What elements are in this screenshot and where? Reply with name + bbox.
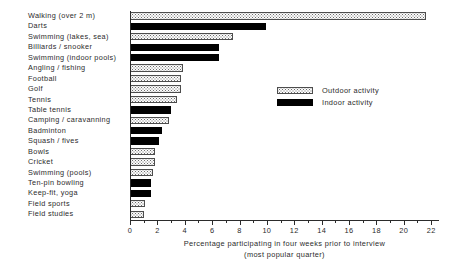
bar-row bbox=[130, 32, 438, 42]
x-tick bbox=[240, 221, 241, 225]
category-label: Badminton bbox=[0, 126, 124, 136]
x-tick bbox=[349, 221, 350, 225]
x-tick-label: 22 bbox=[427, 226, 436, 235]
bar-outdoor bbox=[130, 96, 177, 103]
bar-row bbox=[130, 53, 438, 63]
x-tick-label: 16 bbox=[345, 226, 354, 235]
y-axis-line bbox=[130, 11, 131, 221]
x-tick-label: 12 bbox=[290, 226, 299, 235]
bar-row bbox=[130, 168, 438, 178]
category-label: Angling / fishing bbox=[0, 63, 124, 73]
bar-chart: Walking (over 2 m)DartsSwimming (lakes, … bbox=[0, 0, 458, 265]
bar-indoor bbox=[130, 23, 266, 30]
category-label: Squash / fives bbox=[0, 136, 124, 146]
legend-swatch-indoor bbox=[277, 99, 313, 106]
x-tick bbox=[267, 221, 268, 225]
x-tick-minor bbox=[281, 221, 282, 223]
x-tick bbox=[212, 221, 213, 225]
x-tick-minor bbox=[226, 221, 227, 223]
x-tick-minor bbox=[363, 221, 364, 223]
bar-row bbox=[130, 199, 438, 209]
legend-label: Indoor activity bbox=[322, 98, 373, 107]
category-label: Tennis bbox=[0, 95, 124, 105]
x-tick-minor bbox=[308, 221, 309, 223]
bar-outdoor bbox=[130, 211, 144, 218]
x-tick-minor bbox=[335, 221, 336, 223]
category-label: Camping / caravanning bbox=[0, 115, 124, 125]
bar-outdoor bbox=[130, 117, 169, 124]
x-axis-line bbox=[130, 220, 439, 221]
bar-row bbox=[130, 136, 438, 146]
x-axis-title-line1: Percentage participating in four weeks p… bbox=[130, 238, 439, 249]
category-label: Field studies bbox=[0, 209, 124, 219]
category-label: Swimming (indoor pools) bbox=[0, 53, 124, 63]
x-tick-label: 20 bbox=[399, 226, 408, 235]
x-tick-minor bbox=[390, 221, 391, 223]
bar-row bbox=[130, 74, 438, 84]
bar-row bbox=[130, 178, 438, 188]
category-label: Keep-fit, yoga bbox=[0, 188, 124, 198]
x-tick-label: 14 bbox=[317, 226, 326, 235]
bar-row bbox=[130, 21, 438, 31]
legend-item: Outdoor activity bbox=[277, 84, 437, 97]
bar-indoor bbox=[130, 106, 171, 113]
x-tick-label: 8 bbox=[237, 226, 241, 235]
category-label: Darts bbox=[0, 21, 124, 31]
bar-row bbox=[130, 63, 438, 73]
bar-outdoor bbox=[130, 85, 181, 92]
bar-row bbox=[130, 11, 438, 21]
x-tick-minor bbox=[144, 221, 145, 223]
bar-indoor bbox=[130, 137, 159, 144]
x-axis-title: Percentage participating in four weeks p… bbox=[130, 238, 439, 260]
x-tick-label: 0 bbox=[128, 226, 132, 235]
bar-row bbox=[130, 147, 438, 157]
category-label: Football bbox=[0, 74, 124, 84]
category-label: Field sports bbox=[0, 199, 124, 209]
bar-outdoor bbox=[130, 169, 153, 176]
plot-area bbox=[130, 11, 438, 220]
bar-indoor bbox=[130, 190, 151, 197]
x-tick-label: 6 bbox=[210, 226, 214, 235]
x-tick-label: 2 bbox=[155, 226, 159, 235]
bar-outdoor bbox=[130, 12, 426, 19]
x-tick bbox=[431, 221, 432, 225]
category-label: Bowls bbox=[0, 147, 124, 157]
bar-row bbox=[130, 126, 438, 136]
category-label: Ten-pin bowling bbox=[0, 178, 124, 188]
x-tick bbox=[404, 221, 405, 225]
bar-row bbox=[130, 157, 438, 167]
bar-indoor bbox=[130, 127, 162, 134]
category-label: Swimming (lakes, sea) bbox=[0, 32, 124, 42]
bar-indoor bbox=[130, 44, 219, 51]
category-label: Cricket bbox=[0, 157, 124, 167]
bar-indoor bbox=[130, 54, 219, 61]
x-tick bbox=[185, 221, 186, 225]
x-tick-label: 18 bbox=[372, 226, 381, 235]
x-tick bbox=[130, 221, 131, 225]
category-label: Billiards / snooker bbox=[0, 42, 124, 52]
bar-outdoor bbox=[130, 33, 233, 40]
x-tick bbox=[294, 221, 295, 225]
category-label: Walking (over 2 m) bbox=[0, 11, 124, 21]
bar-outdoor bbox=[130, 158, 155, 165]
category-axis-labels: Walking (over 2 m)DartsSwimming (lakes, … bbox=[0, 11, 124, 220]
bar-outdoor bbox=[130, 75, 181, 82]
x-tick bbox=[322, 221, 323, 225]
bar-outdoor bbox=[130, 148, 155, 155]
x-tick-label: 10 bbox=[262, 226, 271, 235]
x-tick-minor bbox=[253, 221, 254, 223]
legend-label: Outdoor activity bbox=[322, 86, 379, 95]
x-tick bbox=[376, 221, 377, 225]
category-label: Golf bbox=[0, 84, 124, 94]
x-tick-label: 4 bbox=[183, 226, 187, 235]
x-tick-minor bbox=[171, 221, 172, 223]
x-axis-title-line2: (most popular quarter) bbox=[130, 249, 439, 260]
bar-indoor bbox=[130, 179, 151, 186]
chart-legend: Outdoor activityIndoor activity bbox=[277, 84, 437, 109]
bar-row bbox=[130, 42, 438, 52]
bar-row bbox=[130, 188, 438, 198]
bar-outdoor bbox=[130, 64, 183, 71]
category-label: Table tennis bbox=[0, 105, 124, 115]
bar-row bbox=[130, 115, 438, 125]
x-tick-minor bbox=[417, 221, 418, 223]
